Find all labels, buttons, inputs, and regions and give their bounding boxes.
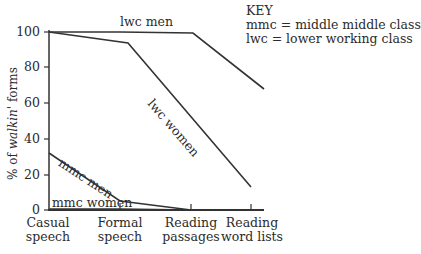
series-label-mmc-women: mmc women — [52, 195, 132, 210]
x-category-label: Formalspeech — [85, 216, 155, 244]
series-lwc-men-line — [49, 32, 264, 89]
y-axis-label-italic: walkin' — [6, 106, 20, 149]
series-label-lwc-men: lwc men — [120, 14, 173, 29]
legend-entry: lwc = lower working class — [246, 32, 421, 46]
y-tick-label: 100 — [16, 24, 40, 39]
x-category-label: Readingword lists — [217, 216, 287, 244]
x-category-label: Casualspeech — [13, 216, 83, 244]
y-axis-label: % of walkin' forms — [6, 70, 20, 180]
legend-key: KEY mmc = middle middle class lwc = lowe… — [246, 4, 421, 46]
legend-entry: mmc = middle middle class — [246, 18, 421, 32]
y-axis-label-suffix: forms — [6, 67, 20, 106]
y-axis-label-prefix: % of — [6, 149, 20, 180]
x-category-label: Readingpassages — [156, 216, 226, 244]
legend-title: KEY — [246, 4, 421, 18]
